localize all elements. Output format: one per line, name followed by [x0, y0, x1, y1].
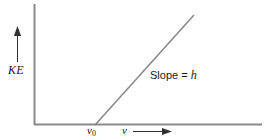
slope-annotation-text: Slope =: [150, 69, 191, 81]
threshold-frequency-subscript: 0: [92, 129, 96, 138]
y-axis-title: KE: [8, 64, 24, 76]
y-axis-arrow-icon: [14, 26, 21, 62]
chart-canvas: [0, 0, 265, 140]
threshold-frequency-label: ν0: [87, 125, 96, 138]
slope-annotation-symbol: h: [191, 68, 197, 82]
slope-annotation: Slope = h: [150, 69, 197, 81]
x-axis-arrow-icon: [133, 128, 172, 135]
x-axis-title: ν: [122, 125, 127, 136]
photoelectric-kinetic-energy-chart: KE Slope = h ν0 ν: [0, 0, 265, 140]
